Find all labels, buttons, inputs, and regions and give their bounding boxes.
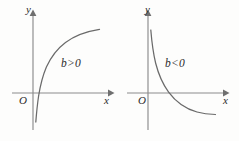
- y-axis-label: y: [145, 4, 150, 15]
- y-axis-label: y: [26, 4, 31, 15]
- curve-b-negative: [151, 30, 216, 115]
- origin-label: O: [19, 95, 27, 106]
- x-axis-label: x: [104, 95, 109, 106]
- condition-label-b-positive: b>0: [61, 58, 81, 70]
- graph-panel-b-negative: y x O b<0: [119, 0, 238, 141]
- graph-canvas-b-negative: [119, 0, 239, 141]
- condition-label-b-negative: b<0: [165, 58, 185, 70]
- origin-label: O: [138, 95, 146, 106]
- graph-canvas-b-positive: [0, 0, 119, 141]
- graph-panel-b-positive: y x O b>0: [0, 0, 119, 141]
- x-axis-label: x: [223, 95, 228, 106]
- logarithmic-curves-figure: y x O b>0 y x O b<0: [0, 0, 239, 141]
- curve-b-positive: [36, 29, 100, 122]
